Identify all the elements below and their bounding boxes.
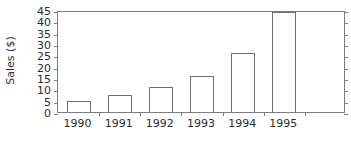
bar [67, 101, 91, 112]
y-axis-tick-label: 20 [37, 62, 51, 73]
y-axis-tick-label: 45 [37, 6, 51, 17]
bar [149, 87, 173, 112]
y-axis-tick-label: 25 [37, 51, 51, 62]
x-axis-tick-label: 1991 [105, 118, 133, 130]
y-axis-tick-right [344, 114, 348, 115]
x-axis-tick-label: 1992 [146, 118, 174, 130]
y-axis-tick-right [344, 69, 348, 70]
bar [272, 12, 296, 112]
x-axis-tick [181, 112, 182, 116]
y-axis-tick-label: 40 [37, 17, 51, 28]
y-axis-tick-right [344, 46, 348, 47]
x-axis-tick [140, 112, 141, 116]
y-axis-tick-label: 35 [37, 28, 51, 39]
y-axis-tick [54, 23, 58, 24]
y-axis-tick [54, 103, 58, 104]
y-axis-tick-labels: 051015202530354045 [20, 0, 54, 147]
y-axis-tick [54, 91, 58, 92]
y-axis-tick-label: 0 [44, 108, 51, 119]
y-axis-tick-right [344, 23, 348, 24]
y-axis-tick [54, 114, 58, 115]
bar [190, 76, 214, 112]
y-axis-tick [54, 80, 58, 81]
y-axis-tick-right [344, 91, 348, 92]
x-axis-tick [99, 112, 100, 116]
x-axis-tick-label: 1994 [228, 118, 256, 130]
y-axis-title-label: Sales ($) [4, 36, 17, 84]
y-axis-tick-right [344, 103, 348, 104]
y-axis-tick-right [344, 35, 348, 36]
y-axis-title: Sales ($) [0, 0, 20, 120]
bar [231, 53, 255, 112]
bar-chart: Sales ($) 051015202530354045 19901991199… [0, 0, 351, 147]
y-axis-tick [54, 12, 58, 13]
x-axis-tick-label: 1993 [187, 118, 215, 130]
y-axis-tick-right [344, 12, 348, 13]
y-axis-tick [54, 69, 58, 70]
y-axis-tick-label: 30 [37, 40, 51, 51]
y-axis-tick [54, 35, 58, 36]
y-axis-tick-label: 5 [44, 96, 51, 107]
y-axis-tick-right [344, 80, 348, 81]
x-axis-tick [305, 112, 306, 116]
bar [108, 95, 132, 112]
x-axis-tick-label: 1995 [269, 118, 297, 130]
y-axis-tick [54, 46, 58, 47]
plot-area [57, 11, 345, 113]
y-axis-tick [54, 57, 58, 58]
x-axis-tick-label: 1990 [64, 118, 92, 130]
y-axis-tick-right [344, 57, 348, 58]
x-axis-tick [223, 112, 224, 116]
y-axis-tick-label: 15 [37, 74, 51, 85]
x-axis-tick-labels: 199019911992199319941995 [57, 118, 345, 138]
x-axis-tick [264, 112, 265, 116]
y-axis-tick-label: 10 [37, 85, 51, 96]
